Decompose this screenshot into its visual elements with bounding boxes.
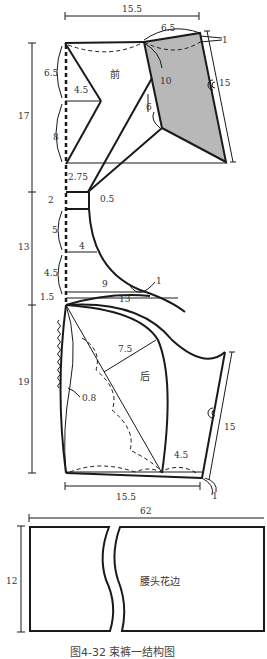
- crotch-offset-label: 0.5: [100, 194, 115, 204]
- back-label: 后: [140, 371, 150, 382]
- pattern-diagram: 15.5 17 15 1 6.5 4.5 6.5 8: [0, 0, 267, 659]
- waistband-width-label: 62: [140, 506, 151, 516]
- dart-length-label: 10: [160, 76, 172, 86]
- offset-right-label: 1: [222, 35, 228, 45]
- top-segment-label: 6.5: [161, 23, 176, 33]
- dart-width-label: 4.5: [74, 85, 89, 95]
- front-height-label: 17: [18, 111, 30, 121]
- seg-a-label: 2: [48, 195, 54, 205]
- dart-inner-label: 6: [146, 102, 152, 112]
- crotch-section: 13 2.75 0.5 2 5 4 4.5 1.5 9 1 13: [18, 165, 185, 312]
- front-piece: 15.5 17 15 1 6.5 4.5 6.5 8: [18, 4, 236, 192]
- front-shaded-panel: [144, 33, 226, 162]
- radius-label: 7.5: [118, 344, 133, 354]
- waistband-piece: 62 12 腰头花边: [6, 506, 264, 632]
- waistband-label: 腰头花边: [140, 575, 180, 587]
- crotch-height-label: 13: [18, 242, 30, 252]
- seg-b-label: 5: [52, 225, 58, 235]
- back-side-label: 15: [224, 422, 236, 432]
- bottom-segment-label: 4.5: [174, 450, 189, 460]
- left-lower-label: 8: [53, 132, 59, 142]
- top-width-label: 15.5: [122, 4, 142, 14]
- seg-c-label: 4.5: [44, 268, 59, 278]
- back-piece: 19 15 0.8 7.5 后 4.5 15.5 1: [18, 304, 236, 502]
- left-upper-label: 6.5: [44, 68, 59, 78]
- front-label: 前: [110, 68, 120, 80]
- waistband-height-label: 12: [6, 576, 17, 586]
- width-mid-label: 4: [79, 241, 85, 251]
- front-side-label: 15: [219, 78, 231, 88]
- figure-caption: 图4-32 束裤一结构图: [70, 645, 175, 659]
- crotch-label: 2.75: [68, 172, 88, 182]
- curve-width-label: 9: [102, 279, 108, 289]
- curve-offset-label: 1: [156, 276, 162, 286]
- bottom-width-label: 15.5: [116, 492, 136, 502]
- seg-d-label: 1.5: [40, 292, 55, 302]
- bottom-offset-label: 1: [212, 491, 218, 501]
- back-height-label: 19: [18, 377, 30, 387]
- ease-label: 0.8: [82, 393, 97, 403]
